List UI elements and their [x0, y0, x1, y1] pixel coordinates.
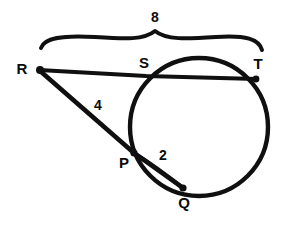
segment-rt: [39, 70, 257, 79]
vertex-dot-r: [36, 66, 44, 74]
vertex-dot-p: [130, 149, 137, 156]
measure-label-rp: 4: [94, 97, 102, 113]
point-label-s: S: [139, 54, 149, 71]
measure-label-st: 8: [151, 9, 159, 25]
point-label-q: Q: [178, 194, 190, 211]
measure-label-pq: 2: [159, 147, 167, 163]
vertex-dot-t: [253, 76, 260, 83]
geometry-diagram: R S T P Q 8 4 2: [0, 0, 282, 225]
point-label-t: T: [253, 55, 262, 72]
point-label-r: R: [17, 60, 28, 77]
vertex-dot-q: [179, 184, 186, 191]
geometry-canvas: R S T P Q 8 4 2: [0, 0, 282, 225]
measure-brace-st: [41, 31, 262, 50]
point-label-p: P: [119, 154, 129, 171]
